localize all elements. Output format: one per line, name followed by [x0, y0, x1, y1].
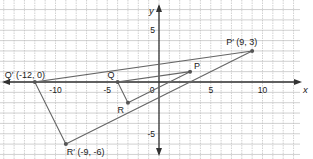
point-label-p: P	[194, 61, 200, 71]
point-label-r: R	[117, 105, 124, 115]
coordinate-plane: x y -10-505105-5 PQRP′ (9, 3)Q′ (-12, 0)…	[0, 0, 313, 159]
point-marker	[188, 70, 192, 74]
x-tick-label: 5	[208, 85, 213, 95]
x-tick-label: -5	[103, 85, 111, 95]
x-tick-label: -10	[49, 85, 62, 95]
x-axis-right-arrow-icon	[294, 79, 302, 85]
point-label-r-prime: R′ (-9, -6)	[67, 147, 105, 157]
y-axis-up-arrow-icon	[156, 4, 162, 12]
y-tick-label: -5	[147, 129, 155, 139]
point-label-q: Q	[108, 70, 115, 80]
point-marker	[64, 142, 68, 146]
y-axis-label: y	[148, 5, 155, 16]
x-tick-label: 10	[258, 85, 268, 95]
point-marker	[250, 49, 254, 53]
point-label-p-prime: P′ (9, 3)	[226, 37, 257, 47]
point-label-q-prime: Q′ (-12, 0)	[5, 70, 45, 80]
y-axis-down-arrow-icon	[156, 148, 162, 156]
x-axis-label: x	[302, 84, 309, 95]
y-tick-label: 5	[150, 25, 155, 35]
point-marker	[116, 80, 120, 84]
point-marker	[33, 80, 37, 84]
image-triangle	[35, 51, 252, 144]
point-marker	[126, 101, 130, 105]
